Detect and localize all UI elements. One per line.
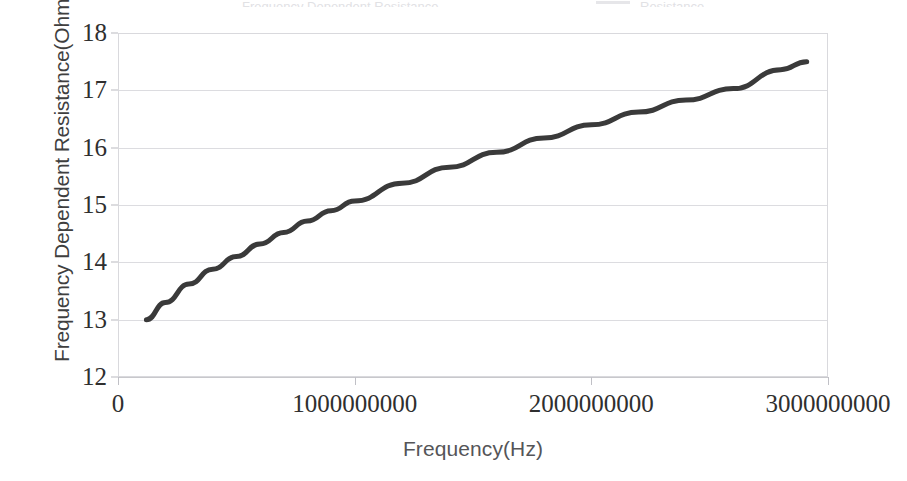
y-tick-label-15: 15 — [82, 191, 107, 219]
y-tick-label-16: 16 — [82, 134, 107, 162]
x-tick-mark-2000000000 — [591, 377, 592, 385]
chart-legend-remnant: Resistance — [640, 0, 704, 7]
x-tick-label-0: 0 — [112, 390, 125, 418]
chart-container: Frequency Dependent Resistance Resistanc… — [0, 0, 907, 481]
y-axis-title: Frequency Dependent Resistance(Ohm) — [50, 2, 74, 362]
y-tick-mark-18 — [111, 33, 118, 34]
y-tick-mark-15 — [111, 205, 118, 206]
x-axis-title: Frequency(Hz) — [118, 437, 828, 461]
x-tick-mark-3000000000 — [828, 377, 829, 385]
series-path — [146, 62, 806, 320]
y-tick-mark-17 — [111, 90, 118, 91]
y-tick-mark-16 — [111, 147, 118, 148]
x-tick-label-1000000000: 1000000000 — [292, 390, 417, 418]
legend-swatch-icon — [596, 1, 630, 4]
x-tick-mark-0 — [118, 377, 119, 385]
y-tick-label-17: 17 — [82, 76, 107, 104]
y-tick-mark-12 — [111, 377, 118, 378]
x-tick-mark-1000000000 — [355, 377, 356, 385]
x-tick-label-2000000000: 2000000000 — [529, 390, 654, 418]
series-line-frequency-dependent-resistance — [118, 33, 828, 377]
chart-title-remnant: Frequency Dependent Resistance — [242, 0, 439, 7]
y-tick-label-18: 18 — [82, 19, 107, 47]
y-tick-mark-14 — [111, 262, 118, 263]
y-tick-label-14: 14 — [82, 248, 107, 276]
y-tick-mark-13 — [111, 319, 118, 320]
plot-area: 12131415161718 0100000000020000000003000… — [118, 33, 828, 377]
gridline-y-12 — [118, 377, 828, 378]
y-tick-label-13: 13 — [82, 306, 107, 334]
y-tick-label-12: 12 — [82, 363, 107, 391]
x-tick-label-3000000000: 3000000000 — [766, 390, 891, 418]
